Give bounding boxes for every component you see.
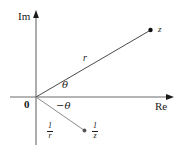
reciprocal-modulus-denominator: r [47,132,53,140]
reciprocal-modulus-label: 1 r [47,122,53,141]
imaginary-axis-label: Im [18,11,30,22]
angle-minus-theta-label: −θ [56,101,70,111]
reciprocal-modulus-numerator: 1 [47,122,53,130]
ray-to-z [36,31,149,97]
origin-label: 0 [24,99,30,110]
angle-theta-label: θ [62,80,68,90]
reciprocal-point-numerator: 1 [92,122,98,130]
point-reciprocal-z-marker [83,129,87,133]
point-z-marker [148,28,152,32]
point-z-label: z [158,25,162,34]
complex-plane-figure: Im Re 0 r θ −θ z 1 r 1 z [0,0,185,151]
imaginary-axis-arrowhead [33,10,39,18]
reciprocal-point-label: 1 z [92,122,98,141]
real-axis-label: Re [155,101,167,112]
modulus-r-label: r [83,53,87,63]
real-axis-arrowhead [166,94,174,100]
reciprocal-point-denominator: z [92,132,98,140]
